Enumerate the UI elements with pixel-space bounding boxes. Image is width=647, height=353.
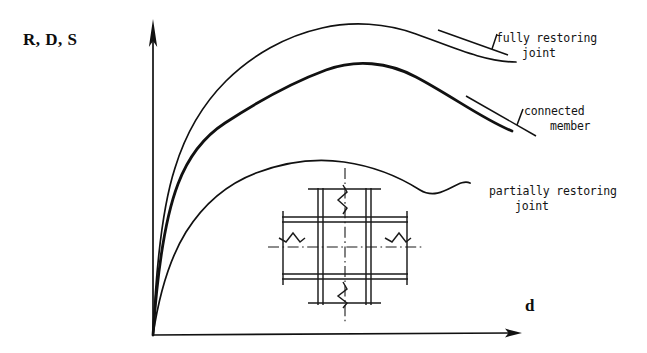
y-axis-label: R, D, S (23, 30, 78, 50)
break-symbol-bottom (338, 282, 347, 308)
leader-tick-connected-member (517, 109, 523, 125)
annotation-line-1: fully restoring (496, 31, 597, 45)
annotation-connected-member: connectedmember (524, 104, 590, 133)
annotation-line-1: connected (524, 104, 585, 118)
annotation-fully-restoring-joint: fully restoringjoint (496, 31, 597, 60)
x-axis-line (152, 333, 512, 335)
annotation-partially-restoring-joint: partially restoringjoint (489, 184, 617, 213)
curve-partially-restoring-joint (153, 160, 470, 335)
annotation-line-1: partially restoring (489, 184, 617, 198)
curves-group (153, 24, 516, 335)
beam-column-joint-detail (268, 168, 422, 322)
annotation-line-2: joint (489, 199, 617, 214)
x-axis-label: d (525, 296, 535, 316)
figure-canvas: R, D, S d fully restoringjoint connected… (0, 0, 647, 353)
curve-fully-restoring-joint (153, 24, 516, 335)
annotation-line-2: joint (496, 46, 597, 61)
annotation-line-2: member (524, 119, 590, 134)
